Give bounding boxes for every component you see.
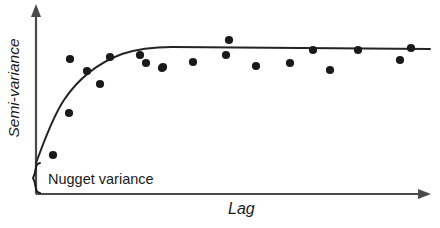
data-point [106, 53, 114, 61]
caption-strip [0, 214, 440, 228]
data-point [309, 46, 317, 54]
arrow-right-icon [418, 189, 431, 199]
data-point [407, 44, 415, 52]
data-point [189, 58, 197, 66]
data-point [222, 51, 230, 59]
data-point [65, 109, 73, 117]
data-point [326, 66, 334, 74]
data-point [83, 67, 91, 75]
scatter-point-group [49, 36, 415, 159]
data-point [49, 151, 57, 159]
data-point [252, 62, 260, 70]
fitted-model-curve [36, 47, 430, 163]
semivariogram-figure: Semi-variance Lag Nugget variance [0, 0, 440, 228]
arrow-up-icon [31, 4, 41, 17]
data-point [225, 36, 233, 44]
y-axis-label: Semi-variance [6, 8, 22, 168]
data-point [66, 55, 74, 63]
data-point [159, 63, 167, 71]
plot-canvas [0, 0, 440, 228]
data-point [396, 56, 404, 64]
nugget-variance-annotation: Nugget variance [48, 172, 154, 187]
data-point [142, 59, 150, 67]
data-point [286, 59, 294, 67]
data-point [354, 46, 362, 54]
data-point [96, 80, 104, 88]
data-point [136, 51, 144, 59]
